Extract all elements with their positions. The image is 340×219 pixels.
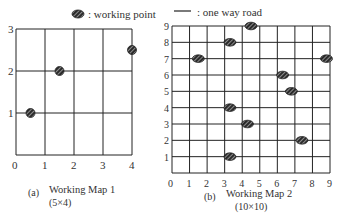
x-tick-label: 3 bbox=[100, 159, 106, 171]
working-point-icon bbox=[72, 10, 84, 18]
y-tick-label: 8 bbox=[164, 37, 169, 48]
y-tick-label: 2 bbox=[8, 65, 14, 77]
y-tick-label: 1 bbox=[8, 107, 14, 119]
x-tick-label: 0 bbox=[168, 178, 173, 189]
x-tick-label: 2 bbox=[71, 159, 77, 171]
y-tick-label: 7 bbox=[164, 54, 169, 65]
map1-caption-tag: (a) bbox=[28, 187, 39, 199]
one-way-road-legend-label: : one way road bbox=[197, 6, 263, 18]
legend-working-point: : working point bbox=[72, 8, 156, 20]
working-point-legend-label: : working point bbox=[88, 8, 156, 20]
x-tick-label: 9 bbox=[327, 178, 332, 189]
map2-caption-size: (10×10) bbox=[235, 201, 267, 213]
working-point-marker bbox=[241, 120, 253, 128]
working-point-marker bbox=[224, 153, 236, 161]
y-tick-label: 1 bbox=[164, 152, 169, 163]
x-tick-label: 0 bbox=[12, 159, 18, 171]
y-tick-label: 3 bbox=[8, 23, 14, 35]
working-map-1: 01234123 bbox=[8, 23, 137, 171]
x-tick-label: 2 bbox=[204, 178, 209, 189]
working-point-marker bbox=[192, 55, 204, 63]
map2-caption-title: Working Map 2 bbox=[226, 188, 292, 199]
x-tick-label: 8 bbox=[309, 178, 314, 189]
working-point-marker bbox=[277, 71, 289, 79]
working-point-marker bbox=[320, 55, 332, 63]
x-tick-label: 1 bbox=[187, 178, 192, 189]
y-tick-label: 6 bbox=[164, 70, 169, 81]
map2-caption-tag: (b) bbox=[204, 191, 216, 203]
map1-caption-size: (5×4) bbox=[49, 197, 71, 209]
x-tick-label: 7 bbox=[292, 178, 297, 189]
working-map-2: 0123456789123456789 bbox=[164, 21, 332, 189]
legend-one-way-road: : one way road bbox=[174, 6, 263, 18]
working-point-marker bbox=[296, 137, 308, 145]
y-tick-label: 2 bbox=[164, 135, 169, 146]
y-tick-label: 9 bbox=[164, 21, 169, 32]
y-tick-label: 4 bbox=[164, 103, 169, 114]
working-point-marker bbox=[285, 88, 297, 96]
working-point-marker bbox=[55, 67, 64, 76]
y-tick-label: 5 bbox=[164, 86, 169, 97]
figure-canvas: : working point : one way road 01234123 … bbox=[0, 0, 340, 219]
x-tick-label: 1 bbox=[42, 159, 48, 171]
map1-caption-title: Working Map 1 bbox=[49, 184, 115, 195]
working-point-marker bbox=[128, 46, 137, 55]
y-tick-label: 3 bbox=[164, 119, 169, 130]
working-point-marker bbox=[245, 22, 257, 30]
working-point-marker bbox=[224, 39, 236, 47]
working-point-marker bbox=[26, 109, 35, 118]
x-tick-label: 4 bbox=[129, 159, 135, 171]
working-point-marker bbox=[224, 104, 236, 112]
